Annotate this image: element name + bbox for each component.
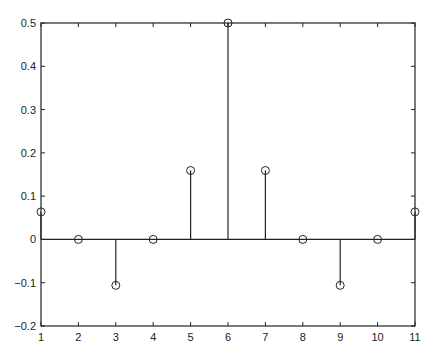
y-axis-ticks: −0.2−0.100.10.20.30.40.5 (14, 17, 415, 332)
x-tick-label: 10 (371, 331, 383, 343)
x-tick-label: 5 (188, 331, 194, 343)
y-tick-label: 0 (30, 233, 36, 245)
y-tick-label: −0.2 (14, 320, 36, 332)
stem-plot: −0.2−0.100.10.20.30.40.5 1234567891011 (0, 0, 433, 356)
x-tick-label: 9 (337, 331, 343, 343)
x-tick-label: 4 (150, 331, 156, 343)
x-axis-ticks: 1234567891011 (38, 23, 421, 343)
y-tick-label: 0.1 (21, 190, 36, 202)
y-tick-label: 0.3 (21, 104, 36, 116)
stem-series (37, 19, 419, 289)
x-tick-label: 1 (38, 331, 44, 343)
x-tick-label: 11 (409, 331, 420, 343)
y-tick-label: 0.5 (21, 17, 36, 29)
y-tick-label: 0.4 (21, 60, 36, 72)
x-tick-label: 6 (225, 331, 231, 343)
x-tick-label: 7 (262, 331, 268, 343)
y-tick-label: 0.2 (21, 147, 36, 159)
x-tick-label: 2 (75, 331, 81, 343)
y-tick-label: −0.1 (14, 277, 36, 289)
x-tick-label: 8 (300, 331, 306, 343)
x-tick-label: 3 (113, 331, 119, 343)
